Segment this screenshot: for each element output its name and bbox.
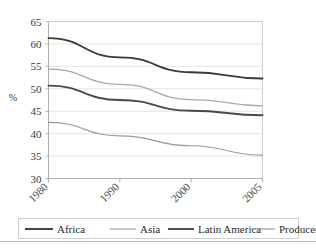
x-tick-label: 1990: [97, 180, 121, 204]
legend-label-asia[interactable]: Asia: [140, 223, 160, 235]
line-chart: 3035404550556065 % 1980199020002005 Afri…: [0, 0, 316, 249]
y-tick-label: 55: [31, 60, 43, 72]
x-tick-label: 2005: [240, 180, 264, 204]
y-tick-label: 40: [31, 128, 43, 140]
y-tick-label: 35: [31, 150, 43, 162]
page-divider-rule: [0, 241, 316, 242]
legend-label-africa[interactable]: Africa: [57, 223, 85, 235]
legend-label-producers[interactable]: Producers: [279, 223, 316, 235]
y-axis-title: %: [9, 92, 17, 103]
x-axis-ticks: [49, 179, 263, 183]
y-tick-label: 50: [31, 83, 43, 95]
y-tick-label: 60: [31, 38, 43, 50]
x-tick-labels: 1980199020002005: [26, 180, 264, 204]
y-tick-label: 65: [31, 16, 43, 28]
x-tick-label: 2000: [169, 180, 193, 204]
y-tick-label: 45: [31, 105, 43, 117]
chart-figure: 3035404550556065 % 1980199020002005 Afri…: [0, 0, 316, 249]
y-tick-labels: 3035404550556065: [31, 16, 43, 185]
